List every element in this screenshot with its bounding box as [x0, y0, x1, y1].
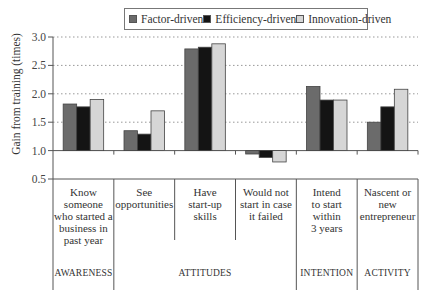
bar-efficiency-driven-1 — [138, 134, 152, 150]
category-label: Would notstart in caseit failed — [236, 186, 297, 222]
bar-innovation-driven-1 — [151, 111, 165, 151]
legend-item-factor: Factor-driven — [129, 13, 203, 25]
legend-item-efficiency: Efficiency-driven — [203, 13, 296, 25]
legend-swatch-innovation — [296, 15, 304, 23]
category-label-line: it failed — [236, 210, 297, 222]
bar-efficiency-driven-3 — [259, 151, 273, 158]
y-tick-label: 1.0 — [32, 145, 47, 157]
category-label-line: start in case — [236, 198, 297, 210]
category-label: Seeopportunities — [114, 186, 175, 210]
y-tick-label: 0.5 — [32, 173, 47, 185]
category-label-line: Have — [175, 186, 236, 198]
category-label-line: start-up — [175, 198, 236, 210]
legend-label: Efficiency-driven — [215, 13, 296, 25]
category-label-line: Nascent or — [357, 186, 418, 198]
legend-item-innovation: Innovation-driven — [296, 13, 391, 25]
legend-swatch-efficiency — [203, 15, 211, 23]
category-label-line: opportunities — [114, 198, 175, 210]
category-label-line: See — [114, 186, 175, 198]
legend-swatch-factor — [129, 15, 137, 23]
category-label: Intendto startwithin3 years — [296, 186, 357, 234]
bar-factor-driven-5 — [367, 122, 381, 150]
bar-innovation-driven-5 — [394, 89, 408, 150]
category-label-line: to start — [296, 198, 357, 210]
bar-innovation-driven-4 — [334, 100, 348, 151]
bar-innovation-driven-2 — [212, 44, 226, 151]
y-tick-labels: 0.51.01.52.02.53.0 — [32, 31, 47, 185]
group-label: ATTITUDES — [114, 268, 297, 278]
category-label: Havestart-upskills — [175, 186, 236, 222]
category-label-line: Intend — [296, 186, 357, 198]
category-label-line: new — [357, 198, 418, 210]
y-tick-label: 2.5 — [32, 59, 47, 71]
group-label: ACTIVITY — [357, 268, 418, 278]
bars — [63, 44, 408, 162]
bar-innovation-driven-0 — [90, 99, 104, 150]
category-label-line: who started a — [53, 210, 114, 222]
category-label-line: within — [296, 210, 357, 222]
group-label: INTENTION — [296, 268, 357, 278]
category-label-line: Would not — [236, 186, 297, 198]
axes — [48, 37, 418, 290]
legend-label: Factor-driven — [141, 13, 203, 25]
bar-efficiency-driven-2 — [198, 47, 212, 150]
category-label-line: Know — [53, 186, 114, 198]
category-label-line: past year — [53, 234, 114, 246]
legend-label: Innovation-driven — [308, 13, 391, 25]
category-label: Knowsomeonewho started abusiness inpast … — [53, 186, 114, 246]
y-tick-label: 2.0 — [32, 88, 47, 100]
bar-efficiency-driven-4 — [320, 100, 334, 151]
y-tick-label: 3.0 — [32, 31, 47, 43]
y-axis-label: Gain from training (times) — [10, 24, 22, 164]
y-tick-label: 1.5 — [32, 116, 47, 128]
category-label-line: entrepreneur — [357, 210, 418, 222]
category-label-line: 3 years — [296, 222, 357, 234]
bar-efficiency-driven-0 — [77, 107, 91, 151]
category-label: Nascent ornewentrepreneur — [357, 186, 418, 222]
bar-factor-driven-2 — [185, 49, 199, 151]
gridlines — [53, 37, 418, 122]
chart: 0.51.01.52.02.53.0 — [0, 0, 431, 296]
bar-factor-driven-3 — [246, 151, 260, 154]
category-label-line: skills — [175, 210, 236, 222]
category-label-line: business in — [53, 222, 114, 234]
group-label: AWARENESS — [53, 268, 114, 278]
bar-efficiency-driven-5 — [381, 107, 395, 151]
bar-factor-driven-0 — [63, 104, 77, 151]
legend: Factor-driven Efficiency-driven Innovati… — [124, 8, 368, 30]
bar-innovation-driven-3 — [273, 151, 287, 162]
bar-factor-driven-4 — [307, 86, 321, 150]
category-label-line: someone — [53, 198, 114, 210]
bar-factor-driven-1 — [124, 131, 138, 151]
